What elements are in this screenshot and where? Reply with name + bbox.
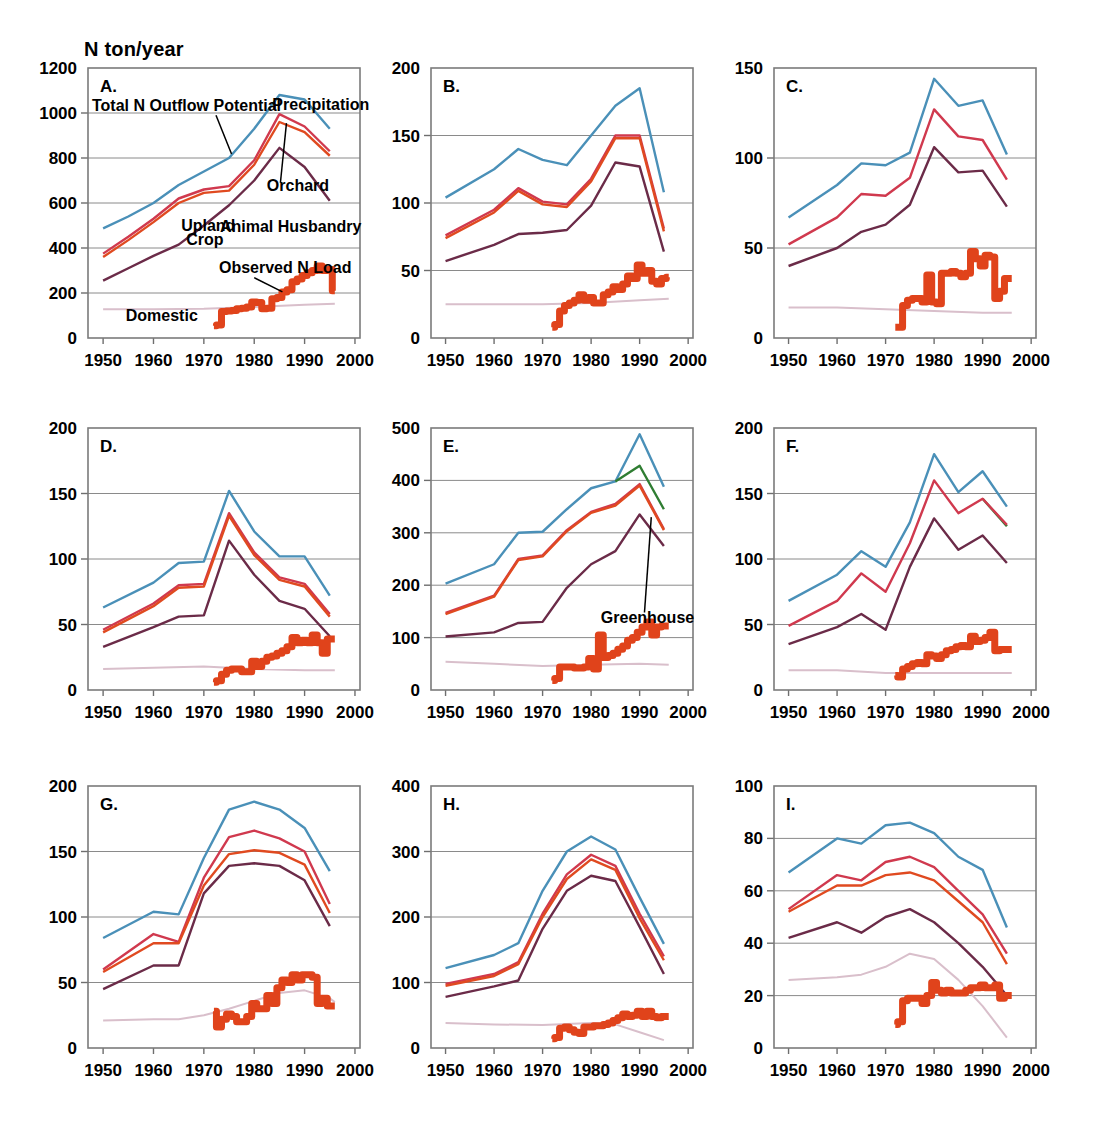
y-tick-label: 50 [744,616,763,635]
panel-letter: C. [786,77,803,96]
series-line-observed-n-load [895,632,1011,677]
series-line-observed-n-load [214,635,335,682]
series-line-animal-husbandry [103,863,330,989]
x-tick-label: 1990 [286,351,324,370]
x-tick-label: 1950 [770,1061,808,1080]
x-tick-label: 1990 [621,1061,659,1080]
x-tick-label: 1950 [84,351,122,370]
y-tick-label: 80 [744,829,763,848]
x-tick-label: 1950 [770,703,808,722]
y-tick-label: 100 [49,908,77,927]
y-tick-label: 0 [754,329,763,348]
panel-letter: A. [100,77,117,96]
series-line-observed-n-load [895,252,1011,328]
y-tick-label: 100 [49,550,77,569]
y-tick-label: 0 [68,329,77,348]
y-axis-unit-label: N ton/year [84,38,184,61]
y-tick-label: 500 [392,419,420,438]
annotation-label: Precipitation [272,96,369,113]
y-tick-label: 50 [401,262,420,281]
x-tick-label: 2000 [336,351,374,370]
x-tick-label: 1950 [427,1061,465,1080]
chart-panel-a: 0200400600800100012001950196019701980199… [36,60,374,384]
x-tick-label: 2000 [669,351,707,370]
y-tick-label: 150 [392,127,420,146]
series-line-orchard [446,484,664,613]
series-line-observed-n-load [552,622,668,681]
x-tick-label: 1960 [818,1061,856,1080]
y-tick-label: 800 [49,149,77,168]
series-line-orchard [789,857,1007,954]
x-tick-label: 1960 [135,1061,173,1080]
panel-letter: B. [443,77,460,96]
y-tick-label: 200 [392,59,420,78]
series-line-precipitation [446,434,664,583]
x-tick-label: 1990 [286,1061,324,1080]
x-tick-label: 1960 [475,703,513,722]
y-tick-label: 0 [411,329,420,348]
x-tick-label: 1990 [964,351,1002,370]
series-line-precipitation [789,79,1007,218]
y-tick-label: 400 [49,239,77,258]
chart-panel-i: 020406080100195019601970198019902000I. [722,778,1050,1094]
y-tick-label: 150 [49,485,77,504]
y-tick-label: 300 [392,843,420,862]
annotation-label: Crop [186,231,224,248]
x-tick-label: 1970 [524,1061,562,1080]
y-tick-label: 150 [49,843,77,862]
chart-panel-g: 050100150200195019601970198019902000G. [36,778,374,1094]
x-tick-label: 1970 [867,1061,905,1080]
x-tick-label: 1970 [524,703,562,722]
chart-panel-d: 050100150200195019601970198019902000D. [36,420,374,736]
y-tick-label: 0 [68,681,77,700]
y-tick-label: 60 [744,882,763,901]
panel-letter: E. [443,437,459,456]
x-tick-label: 2000 [1012,1061,1050,1080]
y-tick-label: 200 [735,419,763,438]
x-tick-label: 1980 [915,1061,953,1080]
series-line-animal-husbandry [789,909,1007,995]
x-tick-label: 1960 [818,703,856,722]
y-tick-label: 100 [392,629,420,648]
y-tick-label: 150 [735,59,763,78]
annotation-leader [254,278,282,292]
series-line-observed-n-load [552,265,668,327]
annotation-label: Animal Husbandry [220,218,361,235]
y-tick-label: 200 [49,777,77,796]
annotation-label: Domestic [126,307,198,324]
y-tick-label: 1200 [39,59,77,78]
chart-panel-c: 050100150195019601970198019902000C. [722,60,1050,384]
x-tick-label: 1970 [867,703,905,722]
y-tick-label: 100 [735,149,763,168]
chart-panel-h: 0100200300400195019601970198019902000H. [379,778,707,1094]
x-tick-label: 2000 [669,703,707,722]
y-tick-label: 200 [49,419,77,438]
series-line-domestic [446,299,669,304]
x-tick-label: 1960 [135,351,173,370]
x-tick-label: 1980 [235,703,273,722]
x-tick-label: 1950 [427,703,465,722]
x-tick-label: 1980 [572,703,610,722]
x-tick-label: 2000 [1012,351,1050,370]
annotation-label: Greenhouse [601,609,694,626]
y-tick-label: 40 [744,934,763,953]
y-tick-label: 50 [58,616,77,635]
x-tick-label: 1980 [235,1061,273,1080]
annotation-leader [644,517,651,612]
x-tick-label: 2000 [669,1061,707,1080]
series-line-upland-crop [103,516,330,633]
y-tick-label: 0 [411,1039,420,1058]
series-line-orchard [789,480,1007,625]
y-tick-label: 0 [68,1039,77,1058]
annotation-label: Observed N Load [219,259,351,276]
series-line-orchard [446,855,664,984]
figure-root: N ton/year 02004006008001000120019501960… [0,0,1118,1134]
x-tick-label: 1960 [818,351,856,370]
y-tick-label: 150 [735,485,763,504]
y-tick-label: 200 [392,576,420,595]
x-tick-label: 1980 [915,703,953,722]
x-tick-label: 1990 [621,703,659,722]
y-tick-label: 100 [735,550,763,569]
y-tick-label: 0 [754,1039,763,1058]
series-line-upland-crop [103,850,330,972]
